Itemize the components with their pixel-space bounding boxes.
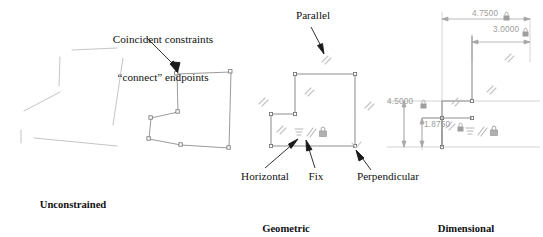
geometric-step-nodes <box>269 72 356 147</box>
horizontal-icon <box>295 129 303 135</box>
caption-dimensional-line1: Dimensional <box>400 223 532 235</box>
fix-icon <box>320 127 327 136</box>
annotation-fix: Fix <box>303 170 329 183</box>
dimensional-icon-cluster <box>466 126 498 136</box>
annotation-parallel: Parallel <box>273 9 353 22</box>
geometric-constraint-glyphs <box>259 56 374 148</box>
lock-icon-4500 <box>421 100 427 108</box>
caption-unconstrained: Unconstrained <box>8 199 138 211</box>
fix-icon-dim <box>491 126 498 135</box>
annotation-coincident: Coincident constraints “connect” endpoin… <box>78 8 248 108</box>
annotation-coincident-line2: “connect” endpoints <box>78 71 248 84</box>
sketch-segment-vertical-mid <box>59 57 60 86</box>
caption-geometric: Geometric Constraints Added <box>220 199 352 237</box>
parallel-icon-cluster <box>307 128 316 137</box>
caption-dimensional: Dimensional Constraints Added <box>400 199 532 237</box>
figure-constraints-overview: Coincident constraints “connect” endpoin… <box>0 0 543 237</box>
parallel-icon-dim-top <box>505 54 514 62</box>
parallel-icon-lower-inner <box>277 126 286 134</box>
dimension-value-4500: 4.5000 <box>387 97 413 106</box>
parallel-icon-upper-inner <box>305 88 314 96</box>
dimensional-constraint-glyphs <box>446 54 514 130</box>
node-5 <box>147 137 150 140</box>
geo-node-stepr <box>293 112 296 115</box>
node-4 <box>179 143 182 146</box>
geo-node-tr <box>353 72 356 75</box>
lock-icon-3000 <box>523 28 529 36</box>
parallel-icon-right-outer <box>365 102 374 110</box>
node-6 <box>149 116 152 119</box>
constraint-icon-cluster <box>295 127 327 137</box>
dimension-value-1875: 1.8750 <box>424 120 450 129</box>
leader-horizontal <box>265 139 298 168</box>
leader-perpendicular <box>356 150 371 170</box>
annotation-perpendicular: Perpendicular <box>336 170 440 183</box>
lock-icon-1875 <box>458 123 464 131</box>
geometric-step-outline <box>271 74 355 146</box>
parallel-icon-left-outer <box>259 98 268 106</box>
node-7 <box>176 110 179 113</box>
geo-node-stepl <box>269 112 272 115</box>
parallel-icon-dim-cluster <box>478 127 487 136</box>
dim-line-3000 <box>472 40 530 44</box>
parallel-icon-dim-right <box>487 86 496 94</box>
sketch-segment-diagonal <box>24 92 60 111</box>
leader-parallel <box>311 27 324 54</box>
dim-node-top <box>470 99 473 102</box>
parallel-icon-top <box>322 56 331 64</box>
parallel-icon-dim-mid <box>452 98 461 106</box>
sketch-segment-bottom <box>34 138 117 146</box>
dimensional-step-outline <box>422 36 472 147</box>
caption-geometric-line1: Geometric <box>220 223 352 235</box>
dimension-value-3000: 3.0000 <box>493 25 519 34</box>
dim-line-4500 <box>402 101 406 147</box>
geo-node-bl <box>269 144 272 147</box>
horizontal-icon-dim <box>466 128 474 134</box>
annotation-horizontal: Horizontal <box>227 170 303 183</box>
lock-icon-4750 <box>504 12 510 20</box>
annotation-coincident-line1: Coincident constraints <box>78 33 248 46</box>
leader-fix <box>306 140 315 168</box>
dimension-value-4750: 4.7500 <box>472 9 498 18</box>
geo-node-tl <box>293 72 296 75</box>
node-3 <box>227 146 230 149</box>
